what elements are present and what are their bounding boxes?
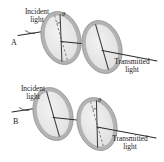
panel-a-label: A bbox=[11, 38, 17, 47]
panel-b: B Incident light Transmitted light θ bbox=[0, 81, 164, 162]
panel-a-incident-line2: light bbox=[8, 16, 66, 24]
panel-b-incident-line2: light bbox=[4, 93, 62, 101]
panel-b-transmitted-line2: light bbox=[100, 143, 160, 151]
panel-b-incident-label: Incident light bbox=[4, 85, 62, 102]
panel-a: A Incident light Transmitted light θ bbox=[0, 0, 164, 81]
panel-b-angle-label: θ bbox=[98, 96, 101, 103]
panel-a-transmitted-label: Transmitted light bbox=[103, 58, 161, 75]
polarization-figure: A Incident light Transmitted light θ bbox=[0, 0, 164, 162]
panel-a-angle-label: θ bbox=[62, 10, 65, 17]
panel-b-label: B bbox=[13, 117, 19, 126]
panel-a-incident-label: Incident light bbox=[8, 8, 66, 25]
panel-b-transmitted-label: Transmitted light bbox=[100, 135, 160, 152]
panel-a-transmitted-line2: light bbox=[103, 66, 161, 74]
